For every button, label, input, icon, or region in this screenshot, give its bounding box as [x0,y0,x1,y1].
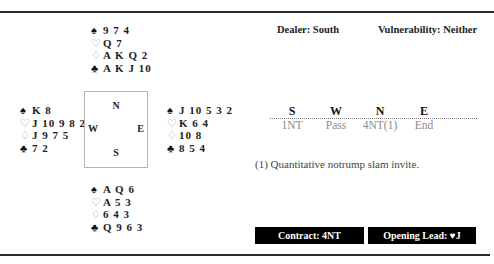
auction-bid-row: 1NT Pass 4NT(1) End [270,119,477,132]
club-icon: ♣ [91,62,103,75]
auction-bid: End [402,119,446,132]
spade-icon: ♠ [91,183,103,196]
auction-header-row: S W N E [270,104,477,118]
north-hearts: Q 7 [103,37,123,50]
south-hearts-row: ♡ A 5 3 [91,196,143,209]
west-clubs: 7 2 [32,142,49,155]
heart-icon: ♡ [91,37,103,50]
east-hand: ♠ J 10 5 3 2 ♡ K 6 4 ♢ 10 8 ♣ 8 5 4 [167,104,233,154]
east-hearts: K 6 4 [179,117,209,130]
compass-south: S [85,147,147,158]
east-clubs: 8 5 4 [179,142,206,155]
club-icon: ♣ [91,221,103,234]
club-icon: ♣ [20,142,32,155]
north-hearts-row: ♡ Q 7 [91,37,152,50]
east-clubs-row: ♣ 8 5 4 [167,142,233,155]
south-clubs-row: ♣ Q 9 6 3 [91,221,143,234]
opening-lead-badge: Opening Lead: ♥J [368,227,476,244]
diamond-icon: ♢ [20,129,32,142]
east-hearts-row: ♡ K 6 4 [167,117,233,130]
bottom-divider [0,254,490,256]
west-hearts-row: ♡ J 10 9 8 2 [20,117,86,130]
spade-icon: ♠ [91,24,103,37]
contract-badge: Contract: 4NT [255,227,364,244]
north-diamonds: A K Q 2 [103,49,148,62]
heart-icon: ♡ [91,196,103,209]
west-hearts: J 10 9 8 2 [32,117,86,130]
auction-header-west: W [314,104,358,118]
top-divider [0,11,494,13]
compass-west: W [88,123,98,134]
auction-footnote: (1) Quantitative notrump slam invite. [255,158,419,170]
auction-header-south: S [270,104,314,118]
south-clubs: Q 9 6 3 [103,221,143,234]
spade-icon: ♠ [20,104,32,117]
vulnerability-label: Vulnerability: Neither [378,24,477,35]
diamond-icon: ♢ [91,49,103,62]
heart-icon: ♡ [167,117,179,130]
heart-icon: ♡ [20,117,32,130]
auction-bid: 1NT [270,119,314,132]
auction-header-east: E [402,104,446,118]
south-spades-row: ♠ A Q 6 [91,183,143,196]
spade-icon: ♠ [167,104,179,117]
dealer-label: Dealer: South [277,24,339,35]
north-clubs-row: ♣ A K J 10 [91,62,152,75]
compass-north: N [85,100,147,111]
south-spades: A Q 6 [103,183,135,196]
auction-bid: 4NT(1) [358,119,402,132]
west-hand: ♠ K 8 ♡ J 10 9 8 2 ♢ J 9 7 5 ♣ 7 2 [20,104,86,154]
auction-header-north: N [358,104,402,118]
compass-box: N W E S [84,91,148,168]
north-hand: ♠ 9 7 4 ♡ Q 7 ♢ A K Q 2 ♣ A K J 10 [91,24,152,74]
west-clubs-row: ♣ 7 2 [20,142,86,155]
north-clubs: A K J 10 [103,62,152,75]
west-spades-row: ♠ K 8 [20,104,86,117]
south-hand: ♠ A Q 6 ♡ A 5 3 ♢ 6 4 3 ♣ Q 9 6 3 [91,183,143,233]
north-spades-row: ♠ 9 7 4 [91,24,152,37]
compass-east: E [137,123,144,134]
south-diamonds: 6 4 3 [103,208,130,221]
west-diamonds-row: ♢ J 9 7 5 [20,129,86,142]
south-hearts: A 5 3 [103,196,132,209]
auction-bid: Pass [314,119,358,132]
north-diamonds-row: ♢ A K Q 2 [91,49,152,62]
club-icon: ♣ [167,142,179,155]
east-diamonds: 10 8 [179,129,202,142]
south-diamonds-row: ♢ 6 4 3 [91,208,143,221]
diamond-icon: ♢ [91,208,103,221]
diamond-icon: ♢ [167,129,179,142]
east-spades: J 10 5 3 2 [179,104,233,117]
east-diamonds-row: ♢ 10 8 [167,129,233,142]
north-spades: 9 7 4 [103,24,130,37]
west-spades: K 8 [32,104,52,117]
auction-table: S W N E 1NT Pass 4NT(1) End [270,104,477,132]
east-spades-row: ♠ J 10 5 3 2 [167,104,233,117]
west-diamonds: J 9 7 5 [32,129,69,142]
